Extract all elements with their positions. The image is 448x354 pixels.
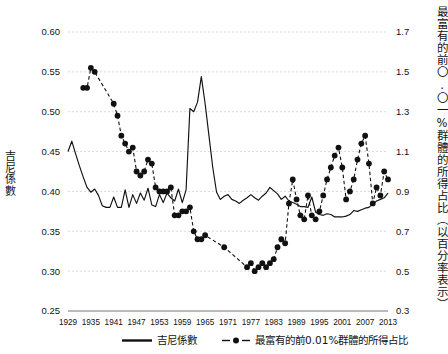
series-point [370,200,376,206]
x-tick-label: 2007 [356,318,375,327]
series-point [328,165,334,171]
series-point [347,189,353,195]
series-point [141,169,147,175]
series-point [248,260,254,266]
left-tick-label: 0.30 [42,266,61,277]
series-point [294,197,300,203]
x-tick-label: 1989 [287,318,306,327]
series-point [187,204,193,210]
gridlines [68,32,388,311]
series-point [275,244,281,250]
right-tick-label: 1.3 [396,106,409,117]
right-tick-label: 1.5 [396,66,409,77]
series-point [366,161,372,167]
series-point [362,133,368,139]
right-axis-title: 最富有的前〇.〇一%群體的所得占比（以百分率表示） [436,6,448,310]
series-point [343,197,349,203]
x-tick-label: 1929 [59,318,78,327]
x-axis-ticks: 1929193519411947195319591965197119771983… [59,318,398,327]
series-point [355,157,361,163]
series-point [286,200,292,206]
series-point [290,177,296,183]
series-point [301,216,307,222]
series-point [332,153,338,159]
legend-marker-dot [233,338,239,344]
data-series-layer [68,65,391,274]
series-point [111,101,117,107]
series-point [336,145,342,151]
x-tick-label: 1935 [82,318,101,327]
series-point [377,193,383,199]
series-point [168,185,174,191]
x-tick-label: 1953 [150,318,169,327]
series-point [381,169,387,175]
x-tick-label: 2001 [333,318,352,327]
series-point [202,232,208,238]
chart-container: 吉尼係數 最富有的前〇.〇一%群體的所得占比（以百分率表示） 0.250.300… [0,0,448,354]
x-tick-label: 1977 [242,318,261,327]
left-tick-label: 0.55 [42,66,61,77]
series-point [221,244,227,250]
right-tick-label: 1.7 [396,26,409,37]
right-tick-label: 0.5 [396,266,409,277]
x-tick-label: 1941 [105,318,124,327]
x-tick-label: 2013 [379,318,398,327]
left-axis-title: 吉尼係數 [4,150,15,196]
right-tick-label: 0.7 [396,226,409,237]
left-axis-ticks: 0.250.300.350.400.450.500.550.60 [42,26,61,316]
chart-plot-area: 0.250.300.350.400.450.500.550.60 0.30.50… [0,0,448,354]
series-point [118,133,124,139]
series-point [324,177,330,183]
series-point [313,216,319,222]
x-tick-label: 1959 [173,318,192,327]
left-tick-label: 0.45 [42,146,61,157]
left-tick-label: 0.25 [42,305,61,316]
left-tick-label: 0.60 [42,26,61,37]
series-point [317,208,323,214]
series-point [115,113,121,119]
series-point [305,193,311,199]
series-point [149,161,155,167]
legend-label-top001: 最富有的前0.01%群體的所得占比 [255,334,408,346]
right-tick-label: 0.3 [396,305,409,316]
x-tick-label: 1947 [127,318,146,327]
x-tick-label: 1971 [219,318,238,327]
series-point [374,185,380,191]
left-tick-label: 0.35 [42,226,61,237]
x-tick-label: 1965 [196,318,215,327]
series-point [92,69,98,75]
left-tick-label: 0.40 [42,186,61,197]
series-point [351,177,357,183]
series-point [358,141,364,147]
series-point [191,228,197,234]
series-point [130,145,136,151]
series-point [282,240,288,246]
series-point [339,165,345,171]
left-tick-label: 0.50 [42,106,61,117]
right-tick-label: 1.1 [396,146,409,157]
x-tick-label: 1983 [265,318,284,327]
right-tick-label: 0.9 [396,186,409,197]
legend-label-gini: 吉尼係數 [157,334,198,346]
series-point [84,85,90,91]
series-point [320,193,326,199]
x-tick-label: 1995 [310,318,329,327]
right-axis-ticks: 0.30.50.70.91.11.31.51.7 [396,26,409,316]
series-point [271,256,277,262]
chart-legend: 吉尼係數最富有的前0.01%群體的所得占比 [122,334,408,346]
series-point [122,141,128,147]
series-point [385,177,391,183]
